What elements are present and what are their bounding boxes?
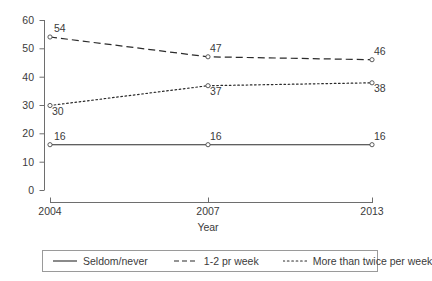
y-axis-tick-label: 50 <box>8 43 34 54</box>
y-axis-tick-label: 40 <box>8 72 34 83</box>
x-axis-tick-label: 2007 <box>185 206 231 217</box>
x-axis-title: Year <box>185 221 231 233</box>
y-axis-tick-label: 30 <box>8 100 34 111</box>
x-axis-tick-label: 2004 <box>27 206 73 217</box>
data-point-marker <box>370 143 374 147</box>
legend-key-solid-icon <box>53 256 77 266</box>
data-label: 16 <box>54 131 66 142</box>
data-label: 46 <box>374 46 386 57</box>
data-point-marker <box>48 143 52 147</box>
data-point-marker <box>206 55 210 59</box>
legend-item-1-2-pr-week[interactable]: 1-2 pr week <box>174 255 259 267</box>
data-label: 37 <box>210 86 222 97</box>
legend-item-more-than-twice-per-week[interactable]: More than twice per week <box>283 255 432 267</box>
y-axis-tick-label: 60 <box>8 15 34 26</box>
legend-label: 1-2 pr week <box>204 255 259 267</box>
data-point-marker <box>206 143 210 147</box>
data-label: 16 <box>374 131 386 142</box>
data-label: 47 <box>210 43 222 54</box>
data-label: 30 <box>52 106 64 117</box>
y-axis-tick-label: 10 <box>8 157 34 168</box>
legend: Seldom/never 1-2 pr week More than twice… <box>42 250 378 272</box>
y-axis-tick-label: 20 <box>8 128 34 139</box>
legend-label: Seldom/never <box>83 255 148 267</box>
legend-item-seldom-never[interactable]: Seldom/never <box>53 255 148 267</box>
data-label: 38 <box>374 83 386 94</box>
data-point-marker <box>370 58 374 62</box>
x-axis-tick-label: 2013 <box>349 206 395 217</box>
legend-key-dotted-icon <box>283 256 307 266</box>
data-label: 16 <box>210 131 222 142</box>
y-axis-tick-label: 0 <box>8 185 34 196</box>
data-point-marker <box>48 35 52 39</box>
data-label: 54 <box>54 23 66 34</box>
legend-label: More than twice per week <box>313 255 432 267</box>
legend-key-dashed-icon <box>174 256 198 266</box>
